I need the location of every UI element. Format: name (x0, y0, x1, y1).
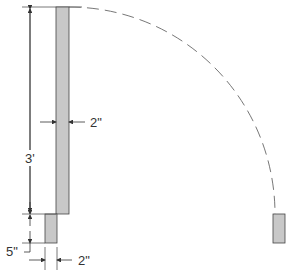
door-stop-right (273, 214, 285, 243)
thickness-label: 2" (90, 115, 102, 130)
door-panel (56, 7, 69, 214)
door-stop-left (45, 214, 57, 243)
swing-arc (69, 7, 275, 214)
stop-thickness-label: 2" (78, 253, 90, 268)
height-label: 3' (25, 151, 35, 166)
door-swing-diagram: 3' 5" 2" 2" (0, 0, 293, 276)
stop-height-label: 5" (6, 244, 18, 259)
